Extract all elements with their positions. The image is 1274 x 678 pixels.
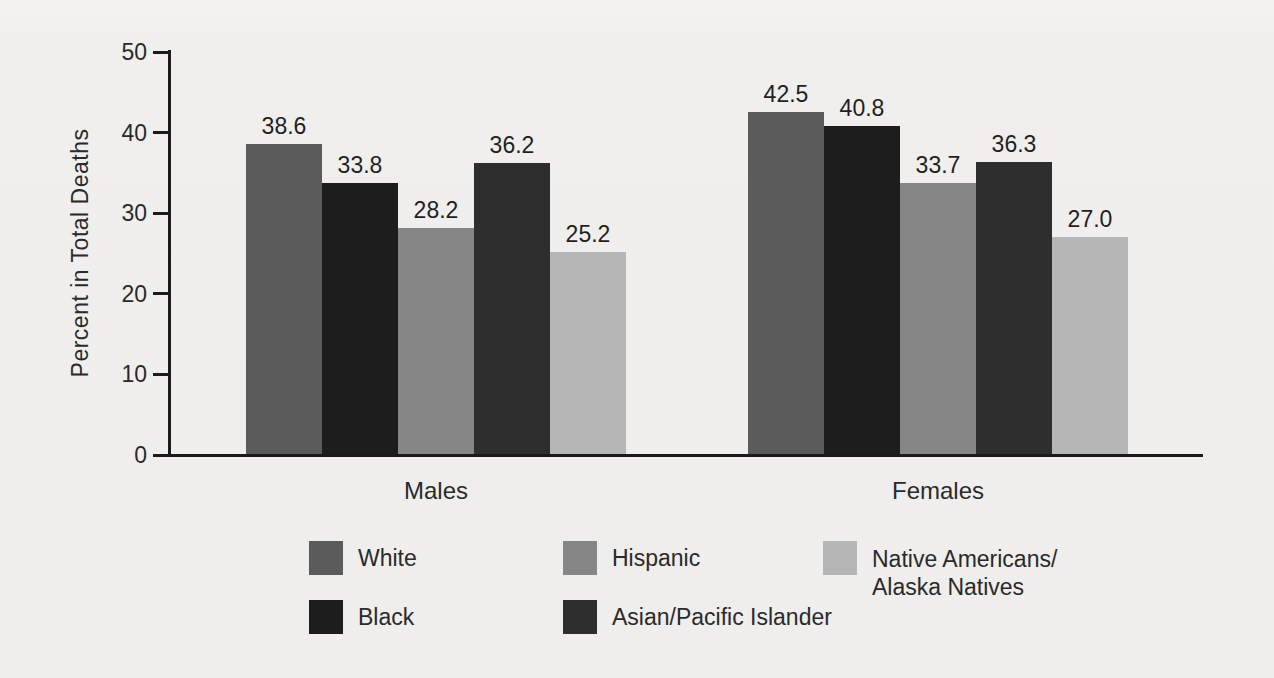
y-tick-label-30: 30 xyxy=(87,200,147,226)
legend-label-hispanic: Hispanic xyxy=(612,541,700,575)
legend-label-line: Black xyxy=(358,604,414,631)
y-tick-50 xyxy=(153,51,169,54)
y-tick-10 xyxy=(153,373,169,376)
bar-males-white xyxy=(246,144,322,454)
bar-value-females-white: 42.5 xyxy=(748,80,824,108)
bar-males-asian-pacific-islander xyxy=(474,163,550,454)
y-tick-label-50: 50 xyxy=(87,39,147,65)
legend-swatch-black xyxy=(309,600,343,634)
legend-swatch-asian-pacific-islander xyxy=(563,600,597,634)
legend-label-asian-pacific-islander: Asian/Pacific Islander xyxy=(612,600,832,634)
x-axis-line xyxy=(153,454,1203,457)
legend-swatch-hispanic xyxy=(563,541,597,575)
bar-females-hispanic xyxy=(900,183,976,454)
bar-value-females-native-americans-alaska-natives: 27.0 xyxy=(1052,205,1128,233)
y-tick-label-0: 0 xyxy=(87,442,147,468)
bar-males-native-americans-alaska-natives xyxy=(550,252,626,454)
category-label-females: Females xyxy=(828,477,1048,505)
y-tick-label-20: 20 xyxy=(87,281,147,307)
legend-label-white: White xyxy=(358,541,417,575)
legend-label-native-americans-alaska-natives: Native Americans/Alaska Natives xyxy=(872,545,1057,601)
y-tick-label-10: 10 xyxy=(87,361,147,387)
bar-females-asian-pacific-islander xyxy=(976,162,1052,454)
y-tick-30 xyxy=(153,212,169,215)
legend-label-line: Asian/Pacific Islander xyxy=(612,604,832,631)
y-tick-label-40: 40 xyxy=(87,120,147,146)
bar-value-males-white: 38.6 xyxy=(246,112,322,140)
bar-value-males-hispanic: 28.2 xyxy=(398,196,474,224)
bar-females-white xyxy=(748,112,824,454)
bar-value-males-native-americans-alaska-natives: 25.2 xyxy=(550,220,626,248)
y-axis-title: Percent in Total Deaths xyxy=(67,129,94,378)
bar-value-males-black: 33.8 xyxy=(322,151,398,179)
bar-males-hispanic xyxy=(398,228,474,454)
bar-value-males-asian-pacific-islander: 36.2 xyxy=(474,131,550,159)
figure: Percent in Total Deaths 01020304050 38.6… xyxy=(0,0,1274,678)
bar-females-black xyxy=(824,126,900,454)
y-tick-20 xyxy=(153,292,169,295)
legend-label-line: White xyxy=(358,545,417,572)
legend-label-line: Native Americans/ xyxy=(872,545,1057,573)
bar-value-females-asian-pacific-islander: 36.3 xyxy=(976,130,1052,158)
y-axis-line xyxy=(168,50,171,457)
legend-label-line: Alaska Natives xyxy=(872,573,1057,601)
y-tick-40 xyxy=(153,131,169,134)
bar-value-females-hispanic: 33.7 xyxy=(900,151,976,179)
y-tick-0 xyxy=(153,454,169,457)
bar-males-black xyxy=(322,183,398,454)
legend-label-black: Black xyxy=(358,600,414,634)
legend-swatch-native-americans-alaska-natives xyxy=(823,541,857,575)
bar-females-native-americans-alaska-natives xyxy=(1052,237,1128,454)
bar-value-females-black: 40.8 xyxy=(824,94,900,122)
legend-label-line: Hispanic xyxy=(612,545,700,572)
legend-swatch-white xyxy=(309,541,343,575)
category-label-males: Males xyxy=(326,477,546,505)
